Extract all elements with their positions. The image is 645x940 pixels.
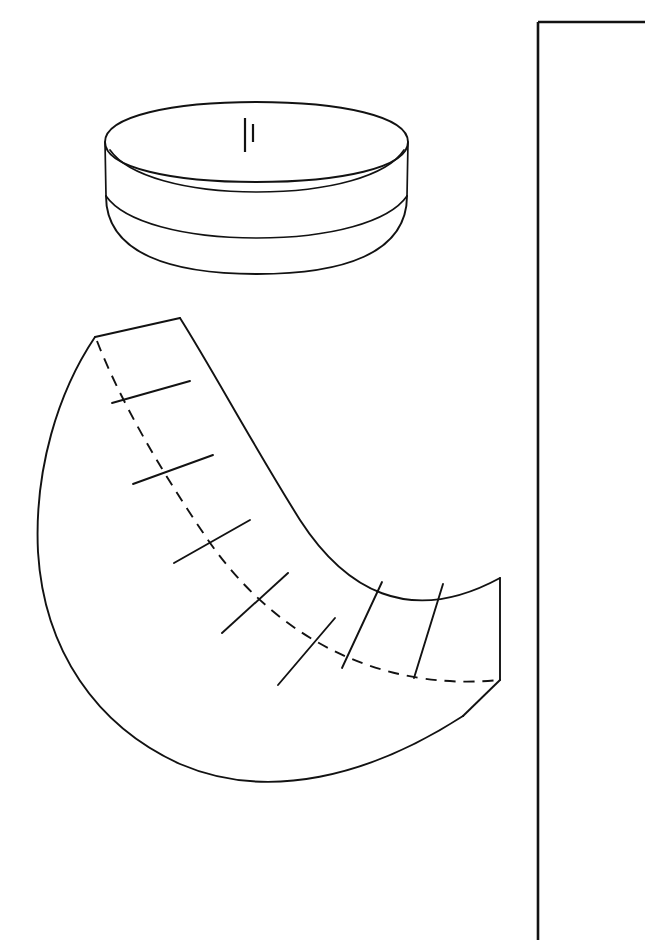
bowl-collar-left-edge — [105, 142, 106, 196]
diagram-canvas — [0, 0, 645, 940]
diagram-root — [0, 0, 645, 940]
bowl-collar-right-edge — [407, 142, 408, 196]
page-background — [0, 0, 645, 940]
